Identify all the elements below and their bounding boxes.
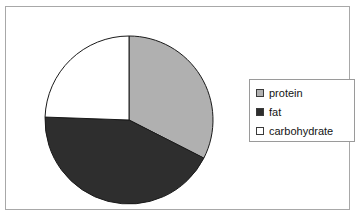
pie-svg (42, 33, 216, 207)
pie-slice-carbohydrate[interactable] (45, 36, 129, 120)
legend-swatch-carbohydrate (256, 127, 264, 135)
legend-swatch-fat (256, 108, 264, 116)
legend-swatch-protein (256, 89, 264, 97)
plot-frame: protein fat carbohydrate (5, 6, 350, 210)
legend-item-protein[interactable]: protein (256, 84, 354, 102)
chart-canvas: protein fat carbohydrate (0, 0, 357, 218)
pie-chart (42, 33, 216, 207)
legend-label-carbohydrate: carbohydrate (269, 126, 333, 137)
pie-slice-group (45, 36, 213, 204)
legend-item-carbohydrate[interactable]: carbohydrate (256, 122, 354, 140)
legend-label-protein: protein (269, 88, 303, 99)
legend-item-fat[interactable]: fat (256, 103, 354, 121)
legend-label-fat: fat (269, 107, 281, 118)
legend: protein fat carbohydrate (249, 79, 355, 142)
